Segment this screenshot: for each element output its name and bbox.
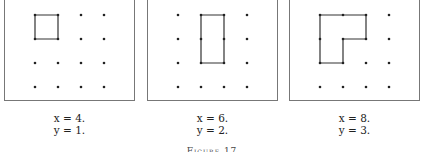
lattice-dot	[200, 38, 203, 41]
lattice-dot	[319, 14, 322, 17]
lattice-dot	[200, 86, 203, 89]
lattice-dot	[200, 14, 203, 17]
panel-1-diagram	[4, 0, 135, 101]
lattice-dot	[103, 86, 106, 89]
lattice-dot	[388, 62, 391, 65]
lattice-dot	[388, 38, 391, 41]
lattice-dot	[388, 86, 391, 89]
lattice-dot	[177, 38, 180, 41]
lattice-dot	[223, 14, 226, 17]
lattice-dot	[246, 86, 249, 89]
lattice-dot	[365, 14, 368, 17]
lattice-dot	[342, 62, 345, 65]
lattice-dot	[365, 86, 368, 89]
panel-1-y-value: y = 1.	[4, 124, 135, 136]
panel-3-x-value: x = 8.	[289, 112, 420, 124]
lattice-dot	[34, 14, 37, 17]
lattice-dot	[103, 14, 106, 17]
panel-2-x-value: x = 6.	[147, 112, 278, 124]
lattice-dot	[177, 62, 180, 65]
lattice-dot	[57, 62, 60, 65]
lattice-dot	[177, 86, 180, 89]
panel-1-x-value: x = 4.	[4, 112, 135, 124]
lattice-dot	[57, 14, 60, 17]
lattice-dot	[223, 62, 226, 65]
lattice-dot	[342, 86, 345, 89]
lattice-dot	[34, 86, 37, 89]
lattice-dot	[177, 14, 180, 17]
lattice-dot	[319, 86, 322, 89]
lattice-dot	[34, 38, 37, 41]
lattice-dot	[80, 62, 83, 65]
dot-grid-1	[5, 0, 136, 102]
lattice-dot	[246, 62, 249, 65]
figure-caption: Figure 17	[0, 146, 424, 152]
lattice-dot	[246, 14, 249, 17]
lattice-dot	[80, 38, 83, 41]
panel-3-caption: x = 8. y = 3.	[289, 112, 420, 136]
lattice-dot	[80, 14, 83, 17]
lattice-dot	[342, 38, 345, 41]
lattice-dot	[365, 62, 368, 65]
panel-2-diagram	[147, 0, 278, 101]
lattice-dot	[200, 62, 203, 65]
lattice-dot	[319, 62, 322, 65]
lattice-dot	[57, 86, 60, 89]
lattice-dot	[223, 38, 226, 41]
lattice-dot	[365, 38, 368, 41]
lattice-dot	[319, 38, 322, 41]
lattice-dot	[34, 62, 37, 65]
lattice-dot	[103, 62, 106, 65]
panel-1-caption: x = 4. y = 1.	[4, 112, 135, 136]
lattice-dot	[80, 86, 83, 89]
lattice-polygon	[201, 15, 224, 63]
panel-3-y-value: y = 3.	[289, 124, 420, 136]
lattice-dot	[246, 38, 249, 41]
dot-grid-3	[290, 0, 421, 102]
lattice-dot	[223, 86, 226, 89]
panel-2-caption: x = 6. y = 2.	[147, 112, 278, 136]
lattice-dot	[103, 38, 106, 41]
panel-3-diagram	[289, 0, 420, 101]
lattice-dot	[342, 14, 345, 17]
dot-grid-2	[148, 0, 279, 102]
panel-2-y-value: y = 2.	[147, 124, 278, 136]
lattice-dot	[388, 14, 391, 17]
lattice-dot	[57, 38, 60, 41]
lattice-polygon	[35, 15, 58, 39]
